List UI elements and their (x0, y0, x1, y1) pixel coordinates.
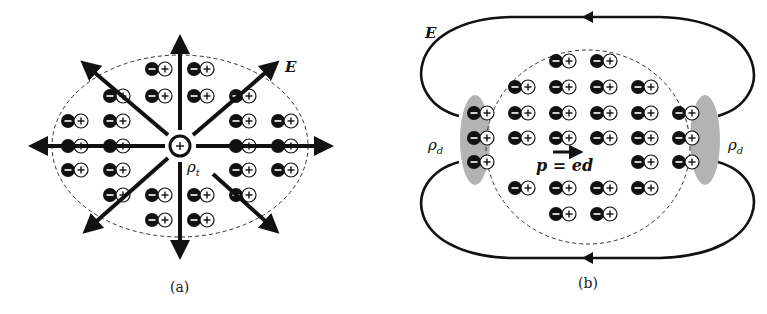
field-arrow-top (582, 11, 593, 23)
rho-d-right-label: ρd (727, 136, 743, 156)
dashed-boundary-b (486, 50, 690, 244)
caption-b: (b) (578, 275, 598, 291)
free-charge (170, 136, 190, 156)
panel-a: ρt E (a) (38, 44, 324, 295)
field-label-b: E (424, 24, 437, 42)
rho-d-left-label: ρd (427, 136, 443, 156)
field-arrow-bottom (582, 252, 593, 264)
caption-a: (a) (170, 279, 189, 295)
dipoles-b (467, 54, 699, 221)
polarization-figure: ρt E (a) p = ed E ρd ρd (b) (0, 0, 767, 314)
panel-b: p = ed E ρd ρd (b) (421, 11, 754, 291)
rho-t-label: ρt (186, 158, 201, 178)
dipole-moment-label: p = ed (536, 156, 593, 175)
field-label-a: E (284, 58, 297, 76)
